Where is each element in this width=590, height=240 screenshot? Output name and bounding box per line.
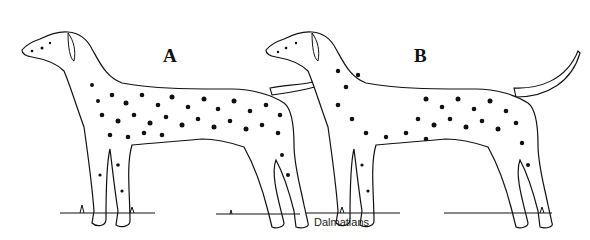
label-a: A (163, 45, 177, 67)
caption: Dalmatians (314, 216, 369, 228)
label-b: B (414, 45, 427, 67)
illustration: A B Dalmatians (0, 0, 590, 240)
ground-lines (60, 205, 552, 214)
dalmatians-drawing (0, 0, 590, 240)
